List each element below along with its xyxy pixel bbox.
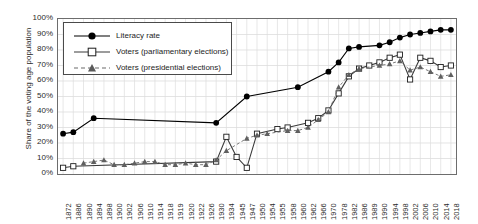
data-point-filled-circle bbox=[213, 120, 219, 126]
y-tick-label: 10% bbox=[23, 154, 53, 162]
x-tick-label: 1954 bbox=[269, 203, 277, 220]
chart-container: Share of the voting age population 100%9… bbox=[0, 0, 478, 224]
data-point-open-square bbox=[244, 165, 249, 170]
y-tick-label: 80% bbox=[23, 45, 53, 53]
data-point-filled-circle bbox=[326, 69, 332, 75]
data-point-filled-triangle bbox=[387, 61, 393, 66]
x-tick-label: 1926 bbox=[208, 203, 216, 220]
x-tick-label: 1994 bbox=[392, 203, 400, 220]
x-tick-label: 2002 bbox=[412, 203, 420, 220]
data-point-filled-triangle bbox=[417, 64, 423, 69]
legend-item-literacy-rate: Literacy rate bbox=[64, 28, 231, 44]
x-tick-label: 1918 bbox=[167, 203, 175, 220]
legend-label-literacy-rate: Literacy rate bbox=[116, 31, 160, 40]
data-point-open-square bbox=[448, 63, 453, 68]
legend-label-parliamentary: Voters (parliamentary elections) bbox=[116, 47, 229, 56]
data-point-open-square bbox=[61, 165, 66, 170]
x-tick-label: 1982 bbox=[351, 203, 359, 220]
data-point-open-square bbox=[438, 64, 443, 69]
x-tick-label: 1914 bbox=[157, 203, 165, 220]
data-point-open-square bbox=[275, 126, 280, 131]
data-point-filled-triangle bbox=[448, 72, 454, 77]
y-tick-label: 30% bbox=[23, 123, 53, 131]
series-line-2 bbox=[84, 61, 451, 165]
data-point-open-square bbox=[71, 164, 76, 169]
data-point-filled-triangle bbox=[203, 162, 209, 167]
x-tick-label: 1898 bbox=[106, 203, 114, 220]
x-tick-label: 1955 bbox=[279, 203, 287, 220]
x-tick-label: 1970 bbox=[330, 203, 338, 220]
data-point-filled-triangle bbox=[101, 157, 107, 162]
data-point-filled-circle bbox=[417, 30, 423, 36]
data-point-filled-triangle bbox=[428, 69, 434, 74]
x-tick-label: 1920 bbox=[188, 203, 196, 220]
x-tick-label: 1990 bbox=[381, 203, 389, 220]
data-point-open-square bbox=[387, 55, 392, 60]
x-tick-label: 1890 bbox=[86, 203, 94, 220]
x-tick-label: 2010 bbox=[432, 203, 440, 220]
data-point-filled-circle bbox=[397, 35, 403, 41]
data-point-filled-circle bbox=[91, 115, 97, 121]
x-tick-label: 1947 bbox=[249, 203, 257, 220]
legend-label-presidential: Voters (presidential elections) bbox=[116, 63, 221, 72]
data-point-filled-circle bbox=[336, 60, 342, 66]
y-tick-label: 90% bbox=[23, 30, 53, 38]
data-point-filled-circle bbox=[60, 131, 66, 137]
x-tick-label: 2006 bbox=[422, 203, 430, 220]
x-tick-label: 1906 bbox=[137, 203, 145, 220]
x-tick-label: 1998 bbox=[402, 203, 410, 220]
data-point-open-square bbox=[407, 77, 412, 82]
data-point-open-square bbox=[234, 154, 239, 159]
data-point-filled-circle bbox=[346, 46, 352, 52]
x-tick-label: 1919 bbox=[177, 203, 185, 220]
x-tick-label: 1989 bbox=[371, 203, 379, 220]
legend-key-open-square-icon bbox=[72, 44, 112, 60]
data-point-filled-circle bbox=[438, 27, 444, 33]
y-tick-label: 100% bbox=[23, 14, 53, 22]
x-tick-label: 2018 bbox=[453, 203, 461, 220]
x-tick-label: 1902 bbox=[126, 203, 134, 220]
chart-legend: Literacy rate Voters (parliamentary elec… bbox=[63, 22, 232, 75]
y-tick-label: 60% bbox=[23, 76, 53, 84]
x-tick-label: 1894 bbox=[96, 203, 104, 220]
x-tick-label: 2014 bbox=[443, 203, 451, 220]
x-tick-label: 1962 bbox=[310, 203, 318, 220]
data-point-open-square bbox=[224, 134, 229, 139]
x-tick-label: 1958 bbox=[290, 203, 298, 220]
x-tick-label: 1978 bbox=[341, 203, 349, 220]
legend-key-filled-triangle-icon bbox=[72, 60, 112, 76]
x-tick-label: 1922 bbox=[198, 203, 206, 220]
data-point-filled-triangle bbox=[142, 159, 148, 164]
data-point-filled-triangle bbox=[336, 84, 342, 89]
legend-item-presidential: Voters (presidential elections) bbox=[64, 60, 231, 76]
data-point-filled-circle bbox=[387, 39, 393, 45]
data-point-filled-circle bbox=[70, 129, 76, 135]
y-tick-label: 40% bbox=[23, 107, 53, 115]
data-point-filled-circle bbox=[356, 44, 362, 50]
x-tick-label: 1950 bbox=[259, 203, 267, 220]
x-tick-label: 1945 bbox=[239, 203, 247, 220]
data-point-open-square bbox=[418, 55, 423, 60]
data-point-filled-circle bbox=[428, 29, 434, 35]
data-point-open-square bbox=[428, 58, 433, 63]
y-tick-label: 0% bbox=[23, 169, 53, 177]
data-point-filled-circle bbox=[407, 32, 413, 38]
data-point-filled-circle bbox=[244, 94, 250, 100]
y-tick-label: 20% bbox=[23, 138, 53, 146]
x-tick-label: 1872 bbox=[65, 203, 73, 220]
x-tick-label: 1930 bbox=[218, 203, 226, 220]
x-tick-label: 1960 bbox=[300, 203, 308, 220]
x-tick-label: 1910 bbox=[147, 203, 155, 220]
x-tick-label: 1886 bbox=[75, 203, 83, 220]
x-axis-tick-labels: 1872188618901894189819001902190619101914… bbox=[57, 176, 457, 224]
y-tick-label: 50% bbox=[23, 92, 53, 100]
data-point-filled-triangle bbox=[224, 148, 230, 153]
y-axis-tick-labels: 100%90%80%70%60%50%40%30%20%10%0% bbox=[20, 0, 53, 224]
data-point-filled-circle bbox=[377, 42, 383, 48]
x-tick-label: 1986 bbox=[361, 203, 369, 220]
legend-item-parliamentary: Voters (parliamentary elections) bbox=[64, 44, 231, 60]
y-tick-label: 70% bbox=[23, 61, 53, 69]
x-tick-label: 1966 bbox=[320, 203, 328, 220]
x-tick-label: 1900 bbox=[116, 203, 124, 220]
legend-key-filled-circle-icon bbox=[72, 28, 112, 44]
